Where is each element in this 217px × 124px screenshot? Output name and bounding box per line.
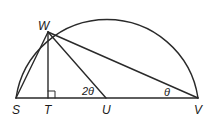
label-w: W bbox=[38, 19, 51, 33]
label-u: U bbox=[102, 103, 111, 117]
segment-ws bbox=[16, 32, 48, 98]
segment-wv bbox=[48, 32, 198, 98]
angle-label-2theta: 2θ bbox=[81, 85, 94, 97]
label-t: T bbox=[44, 103, 53, 117]
label-s: S bbox=[12, 103, 20, 117]
segment-wu bbox=[48, 32, 106, 98]
geometry-diagram: W S T U V 2θ θ bbox=[0, 0, 217, 124]
right-angle-marker bbox=[48, 91, 55, 98]
label-v: V bbox=[194, 103, 203, 117]
angle-label-theta: θ bbox=[164, 86, 170, 98]
